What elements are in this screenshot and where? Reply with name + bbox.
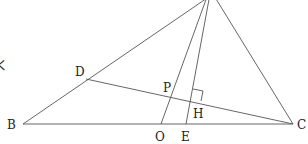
right-angle-marker	[193, 89, 203, 101]
partial-left-text: く	[0, 59, 8, 73]
label-O: O	[155, 130, 165, 144]
segment-AO	[161, 0, 208, 124]
label-C: C	[297, 118, 306, 132]
segment-AB	[23, 0, 213, 124]
segment-DC	[86, 79, 293, 124]
geometry-diagram: B C D P H O E く	[0, 0, 308, 144]
label-P: P	[163, 81, 171, 95]
label-B: B	[7, 118, 16, 132]
label-H: H	[193, 107, 203, 121]
label-E: E	[181, 130, 190, 144]
label-D: D	[75, 65, 85, 79]
segment-AC	[213, 0, 293, 124]
